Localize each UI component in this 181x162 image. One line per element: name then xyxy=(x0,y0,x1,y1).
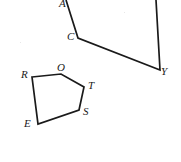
background-speck xyxy=(124,12,125,13)
geometry-figure: A C Y R O T S E xyxy=(0,0,181,162)
vertex-label-Y: Y xyxy=(161,66,167,77)
vertex-label-E: E xyxy=(24,118,31,129)
background-speck xyxy=(20,42,21,43)
vertex-label-O: O xyxy=(57,62,65,73)
vertex-label-C: C xyxy=(67,31,74,42)
vertex-label-A: A xyxy=(59,0,66,9)
vertex-label-T: T xyxy=(88,80,94,91)
vertex-label-S: S xyxy=(83,106,89,117)
lower-pentagon-shape xyxy=(32,74,84,124)
vertex-label-R: R xyxy=(21,69,28,80)
upper-quadrilateral-shape xyxy=(66,0,160,70)
